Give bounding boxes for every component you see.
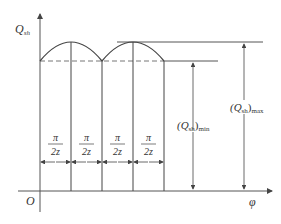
segment-label: π 2z (48, 132, 63, 157)
svg-text:2z: 2z (82, 146, 91, 157)
svg-text:2z: 2z (113, 146, 122, 157)
x-axis-label: φ (249, 195, 256, 209)
svg-text:2z: 2z (144, 146, 153, 157)
segment-label: π 2z (79, 132, 94, 157)
svg-text:π: π (84, 132, 90, 143)
min-label: (Qsh)min (177, 119, 210, 133)
svg-text:2z: 2z (51, 146, 60, 157)
svg-text:π: π (146, 132, 152, 143)
svg-text:π: π (53, 132, 59, 143)
origin-label: O (26, 194, 35, 208)
flow-pulsation-diagram: Qsh O φ π 2z π 2z π 2z π 2z (Qsh)min (Qs… (0, 0, 281, 224)
y-axis-label: Qsh (15, 22, 30, 37)
flow-curve (40, 42, 164, 61)
segment-label: π 2z (110, 132, 125, 157)
segment-label: π 2z (141, 132, 156, 157)
max-label: (Qsh)max (230, 101, 264, 115)
svg-text:π: π (115, 132, 121, 143)
